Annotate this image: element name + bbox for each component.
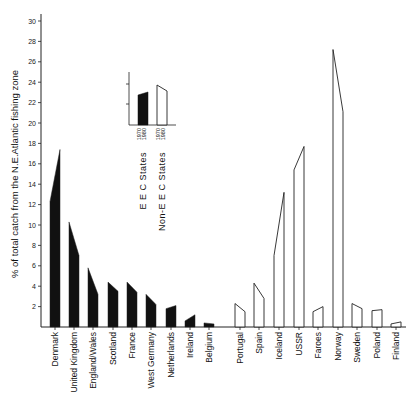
category-label: USSR — [294, 332, 304, 356]
category-label: Ireland — [185, 332, 195, 358]
bar-portugal — [235, 304, 245, 327]
bar-spain — [254, 283, 264, 327]
bars — [50, 50, 401, 327]
bar-belgium — [204, 323, 214, 327]
legend-year-label: 1980 — [141, 128, 147, 140]
y-tick-label: 24 — [28, 79, 36, 86]
y-tick-label: 20 — [28, 120, 36, 127]
category-label: France — [127, 332, 137, 359]
category-label: United Kingdom — [69, 332, 79, 392]
bar-france — [127, 282, 137, 327]
legend-eec-label: E E C States — [138, 152, 148, 210]
bar-ireland — [185, 315, 195, 327]
category-label: Portugal — [235, 332, 245, 364]
bar-england-wales — [88, 268, 98, 327]
category-label: Denmark — [50, 331, 60, 366]
y-axis-label: % of total catch from the N.E.Atlantic f… — [9, 70, 20, 278]
category-label: Sweden — [352, 332, 362, 363]
y-tick-label: 10 — [28, 222, 36, 229]
legend-non-eec-swatch — [157, 85, 167, 125]
y-tick-label: 30 — [28, 18, 36, 25]
category-label: Norway — [333, 331, 343, 361]
bar-denmark — [50, 150, 60, 327]
bar-faroes — [313, 307, 323, 327]
y-tick-label: 28 — [28, 38, 36, 45]
category-label: Belgium — [204, 332, 214, 363]
legend-non-eec-label: Non-E E C States — [157, 152, 167, 231]
y-tick-label: 18 — [28, 140, 36, 147]
bar-west-germany — [146, 294, 156, 327]
y-tick-label: 8 — [32, 242, 36, 249]
legend: 19701980E E C States19701980Non-E E C St… — [126, 72, 176, 231]
y-tick-label: 26 — [28, 58, 36, 65]
category-label: Netherlands — [166, 332, 176, 378]
bar-ussr — [294, 146, 304, 327]
category-label: Finland — [391, 332, 401, 360]
category-label: Faroes — [313, 332, 323, 358]
y-axis: 24681012141618202224262830 — [28, 14, 406, 327]
y-tick-label: 16 — [28, 160, 36, 167]
y-tick-label: 22 — [28, 99, 36, 106]
category-label: England/Wales — [88, 332, 98, 389]
y-tick-label: 2 — [32, 303, 36, 310]
fishing-catch-chart: 24681012141618202224262830 % of total ca… — [0, 0, 418, 416]
bar-norway — [333, 50, 343, 327]
bar-iceland — [274, 192, 284, 327]
bar-poland — [372, 310, 382, 327]
legend-eec-swatch — [138, 92, 148, 125]
legend-year-label: 1980 — [160, 128, 166, 140]
y-tick-label: 14 — [28, 181, 36, 188]
category-label: Spain — [254, 332, 264, 354]
category-label: West Germany — [146, 331, 156, 388]
bar-scotland — [108, 282, 118, 327]
bar-netherlands — [166, 306, 176, 327]
bar-sweden — [352, 304, 362, 327]
x-axis-labels: DenmarkUnited KingdomEngland/WalesScotla… — [50, 327, 401, 392]
category-label: Scotland — [108, 332, 118, 365]
bar-united-kingdom — [69, 222, 79, 327]
y-tick-label: 6 — [32, 262, 36, 269]
bar-finland — [391, 322, 401, 327]
y-tick-label: 12 — [28, 201, 36, 208]
category-label: Iceland — [274, 332, 284, 360]
y-tick-label: 4 — [32, 283, 36, 290]
category-label: Poland — [372, 332, 382, 359]
